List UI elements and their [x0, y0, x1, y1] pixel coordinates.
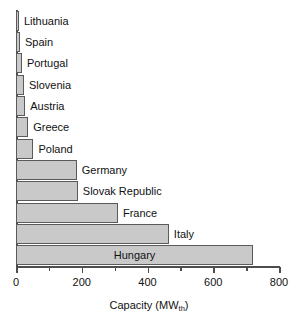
bar: [16, 139, 33, 159]
x-axis-tick-label: 0: [13, 276, 19, 288]
bar-category-label: France: [123, 207, 157, 218]
bar-category-label: Italy: [174, 228, 194, 239]
x-axis-tick-label: 800: [270, 276, 288, 288]
x-axis-title-main: Capacity (MW: [110, 299, 179, 311]
bar-category-label: Slovenia: [29, 79, 71, 90]
bar: [16, 160, 77, 180]
x-axis-tick-minor: [246, 267, 248, 271]
bar-row: Greece: [16, 117, 279, 138]
x-axis-title-subscript: th: [179, 304, 185, 313]
bar-row: Italy: [16, 223, 279, 244]
plot-area: LithuaniaSpainPortugalSloveniaAustriaGre…: [16, 10, 279, 266]
bar-row: Slovenia: [16, 74, 279, 95]
bar-category-label: Slovak Republic: [83, 186, 162, 197]
x-axis-tick-label: 600: [204, 276, 222, 288]
bar-row: Germany: [16, 159, 279, 180]
x-axis-tick-minor: [180, 267, 182, 271]
bar-category-label: Hungary: [114, 250, 156, 261]
bar: [16, 11, 19, 31]
x-axis-tick-major: [148, 267, 150, 273]
x-axis-tick-minor: [49, 267, 51, 271]
bar-row: Austria: [16, 95, 279, 116]
x-axis-tick-major: [82, 267, 84, 273]
x-axis-title: Capacity (MWth): [0, 299, 298, 313]
x-axis-tick-label: 200: [73, 276, 91, 288]
bar: [16, 75, 24, 95]
bar: [16, 181, 78, 201]
bar: [16, 32, 20, 52]
bar: [16, 53, 22, 73]
bar: [16, 117, 28, 137]
bar: [16, 203, 118, 223]
bar-category-label: Lithuania: [24, 15, 69, 26]
bar-category-label: Poland: [38, 143, 72, 154]
bar-row: Hungary: [16, 245, 279, 266]
bar-row: France: [16, 202, 279, 223]
x-axis-tick-major: [279, 267, 281, 273]
bar-category-label: Germany: [82, 164, 127, 175]
bar-category-label: Greece: [33, 122, 69, 133]
bar-row: Poland: [16, 138, 279, 159]
bar: [16, 224, 169, 244]
bar-row: Lithuania: [16, 10, 279, 31]
bar-category-label: Portugal: [27, 58, 68, 69]
bar-category-label: Spain: [25, 36, 53, 47]
bar-category-label: Austria: [30, 100, 64, 111]
bar-chart: LithuaniaSpainPortugalSloveniaAustriaGre…: [0, 0, 298, 328]
bar-row: Slovak Republic: [16, 181, 279, 202]
bar-row: Spain: [16, 31, 279, 52]
x-axis-tick-major: [16, 267, 18, 273]
x-axis-tick-major: [213, 267, 215, 273]
bar: [16, 96, 25, 116]
x-axis-title-suffix: ): [185, 299, 189, 311]
x-axis-tick-label: 400: [138, 276, 156, 288]
x-axis-tick-minor: [115, 267, 117, 271]
bar-row: Portugal: [16, 53, 279, 74]
